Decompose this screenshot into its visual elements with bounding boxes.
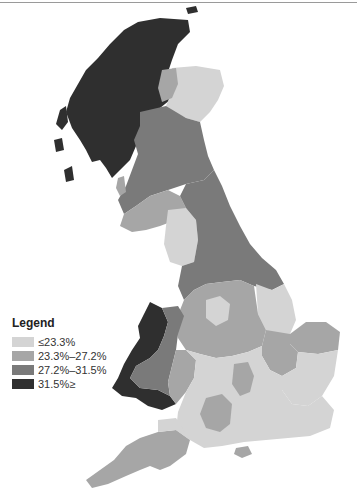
region-south-west [86, 430, 190, 488]
legend-item: 27.2%–31.5% [12, 363, 107, 376]
region-isle-of-wight [234, 446, 252, 458]
legend-swatch-low [12, 351, 34, 361]
region-orkney [186, 6, 198, 14]
legend-label: 23.3%–27.2% [38, 350, 107, 362]
legend-label: ≤23.3% [38, 336, 75, 348]
legend-swatch-lowest [12, 337, 34, 347]
region-norfolk [290, 322, 340, 354]
legend-label: 31.5%≥ [38, 378, 75, 390]
legend-item: 23.3%–27.2% [12, 349, 107, 362]
region-arran [116, 176, 126, 196]
great-britain-map [0, 0, 357, 495]
legend-item: ≤23.3% [12, 335, 107, 348]
legend-swatch-highest [12, 379, 34, 389]
legend-item: 31.5%≥ [12, 377, 107, 390]
legend-swatch-high [12, 365, 34, 375]
legend: Legend ≤23.3% 23.3%–27.2% 27.2%–31.5% 31… [12, 316, 107, 391]
legend-title: Legend [12, 316, 107, 330]
legend-label: 27.2%–31.5% [38, 364, 107, 376]
region-cumbria [164, 208, 198, 266]
